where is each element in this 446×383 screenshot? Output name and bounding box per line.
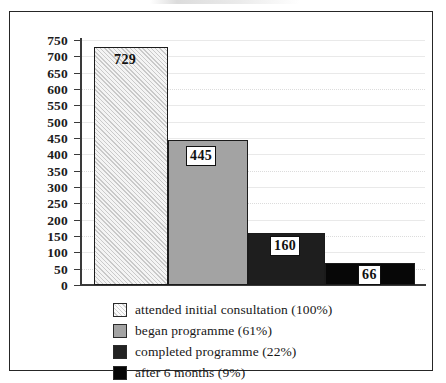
y-ticklabel-400: 400	[26, 148, 68, 162]
y-ticklabel-500: 500	[26, 116, 68, 130]
value-label-66: 66	[358, 265, 381, 285]
value-label-729: 729	[114, 53, 136, 67]
y-ticklabel-700: 700	[26, 50, 68, 64]
y-tick-350	[74, 171, 82, 172]
gray-swatch-icon	[113, 324, 127, 338]
y-tick-300	[74, 187, 82, 188]
y-tick-250	[74, 203, 82, 204]
dark-gray-swatch-icon	[113, 345, 127, 359]
y-tick-200	[74, 220, 82, 221]
bar-chart-figure: 750 700 650 600 550 500 450 400 350 300 …	[0, 0, 446, 383]
y-ticklabel-200: 200	[26, 214, 68, 228]
y-tick-750	[74, 40, 82, 41]
y-ticklabel-250: 250	[26, 197, 68, 211]
y-tick-400	[74, 154, 82, 155]
value-label-160: 160	[270, 236, 300, 256]
legend-label-after-6-months: after 6 months (9%)	[135, 366, 245, 380]
legend-item-after-6-months[interactable]: after 6 months (9%)	[113, 362, 413, 383]
y-ticklabel-450: 450	[26, 132, 68, 146]
y-ticklabel-600: 600	[26, 83, 68, 97]
y-ticklabel-550: 550	[26, 99, 68, 113]
y-ticklabel-50: 50	[26, 263, 68, 277]
y-tick-450	[74, 138, 82, 139]
bar-attended-initial-consultation[interactable]	[94, 47, 168, 285]
legend-label-completed-programme: completed programme (22%)	[135, 345, 296, 359]
gridline-750	[82, 40, 425, 41]
y-tick-650	[74, 73, 82, 74]
y-tick-150	[74, 236, 82, 237]
chart-legend: attended initial consultation (100%) beg…	[113, 299, 413, 383]
y-ticklabel-0: 0	[26, 279, 68, 293]
y-axis-line	[80, 38, 82, 286]
legend-label-began-programme: began programme (61%)	[135, 324, 272, 338]
legend-label-attended-initial-consultation: attended initial consultation (100%)	[135, 303, 332, 317]
y-tick-500	[74, 122, 82, 123]
y-tick-50	[74, 269, 82, 270]
legend-item-completed-programme[interactable]: completed programme (22%)	[113, 341, 413, 362]
y-tick-600	[74, 89, 82, 90]
y-ticklabel-300: 300	[26, 181, 68, 195]
y-tick-550	[74, 105, 82, 106]
scan-artifact	[150, 0, 300, 4]
legend-item-began-programme[interactable]: began programme (61%)	[113, 320, 413, 341]
value-label-445: 445	[186, 146, 216, 166]
black-swatch-icon	[113, 366, 127, 380]
y-tick-100	[74, 252, 82, 253]
y-ticklabel-100: 100	[26, 246, 68, 260]
y-ticklabel-350: 350	[26, 165, 68, 179]
hatched-white-swatch-icon	[113, 303, 127, 317]
y-ticklabel-650: 650	[26, 67, 68, 81]
y-tick-700	[74, 56, 82, 57]
legend-item-attended-initial-consultation[interactable]: attended initial consultation (100%)	[113, 299, 413, 320]
y-ticklabel-750: 750	[26, 34, 68, 48]
y-tick-0	[74, 285, 82, 286]
y-ticklabel-150: 150	[26, 230, 68, 244]
chart-frame-border: 750 700 650 600 550 500 450 400 350 300 …	[9, 11, 433, 371]
